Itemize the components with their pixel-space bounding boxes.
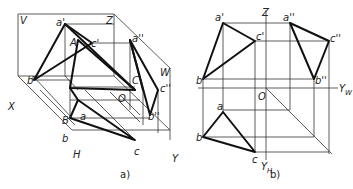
triangle-v-projection bbox=[34, 24, 92, 80]
label-b: b bbox=[196, 132, 202, 143]
triangle-v-view bbox=[203, 23, 255, 79]
label-h: H bbox=[73, 149, 81, 160]
label-c: c bbox=[134, 146, 140, 157]
label-A: A bbox=[69, 37, 77, 48]
label-y: Y bbox=[172, 153, 179, 164]
label-c-dprime: c'' bbox=[160, 83, 171, 94]
label-c-dprime: c'' bbox=[330, 33, 341, 44]
caption-a: a) bbox=[120, 169, 130, 180]
label-o: O bbox=[118, 93, 126, 104]
label-w: W bbox=[160, 67, 171, 78]
label-B: B bbox=[62, 115, 69, 126]
label-c-prime: c' bbox=[256, 31, 264, 42]
label-b-prime: b' bbox=[196, 75, 205, 86]
label-b: b bbox=[62, 133, 68, 144]
label-a-prime: a' bbox=[215, 12, 224, 23]
label-z: Z bbox=[105, 15, 114, 26]
label-a: a bbox=[217, 101, 223, 112]
label-z: Z bbox=[261, 7, 270, 18]
label-a-dprime: a'' bbox=[132, 33, 144, 44]
label-yw: YW bbox=[339, 83, 353, 97]
label-x: X bbox=[7, 101, 16, 112]
label-a-dprime: a'' bbox=[283, 12, 295, 23]
label-c: c bbox=[252, 154, 258, 165]
caption-b: b) bbox=[270, 169, 280, 180]
label-b-prime: b' bbox=[27, 75, 36, 86]
triangle-w-view bbox=[290, 23, 329, 79]
figure-a-pictorial: V Z W X Y H O A B C a' b' c' a'' c'' b''… bbox=[7, 14, 179, 180]
label-a-prime: a' bbox=[56, 17, 65, 28]
label-b-dprime: b'' bbox=[148, 111, 160, 122]
orthographic-projection-diagram: V Z W X Y H O A B C a' b' c' a'' c'' b''… bbox=[0, 0, 353, 189]
label-c-prime: c' bbox=[91, 38, 99, 49]
45-degree-line bbox=[266, 88, 332, 154]
label-a: a bbox=[80, 111, 86, 122]
triangle-abc-space bbox=[70, 40, 135, 90]
triangle-h-view bbox=[203, 112, 255, 152]
label-o: O bbox=[258, 91, 266, 102]
label-v: V bbox=[20, 15, 28, 26]
label-C: C bbox=[132, 75, 139, 86]
label-b-dprime: b'' bbox=[315, 75, 327, 86]
figure-b-orthographic: Z O YW YH a' b' c' a'' c'' b'' a b c b) bbox=[196, 7, 353, 180]
v-plane-frame bbox=[18, 14, 114, 76]
